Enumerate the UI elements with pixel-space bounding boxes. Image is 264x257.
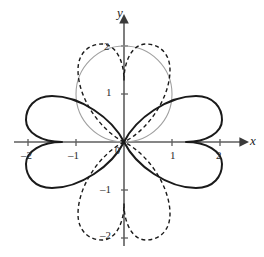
y-tick-label-neg1: –1 [100, 184, 111, 195]
y-tick-label-pos1: 1 [106, 87, 112, 98]
x-tick-label-neg1: –1 [68, 150, 79, 161]
polar-plot-figure: x y –2 –1 0 1 2 2 1 –1 –2 [0, 0, 264, 257]
x-tick-label-zero: 0 [115, 146, 120, 156]
x-tick-label-neg2: –2 [21, 150, 32, 161]
y-axis-label: y [117, 6, 123, 19]
y-tick-label-pos2: 2 [104, 41, 110, 52]
x-tick-label-pos1: 1 [170, 150, 176, 161]
x-tick-label-pos2: 2 [216, 150, 222, 161]
plot-canvas [0, 0, 264, 257]
x-axis-label: x [250, 134, 256, 147]
y-tick-label-neg2: –2 [100, 230, 111, 241]
